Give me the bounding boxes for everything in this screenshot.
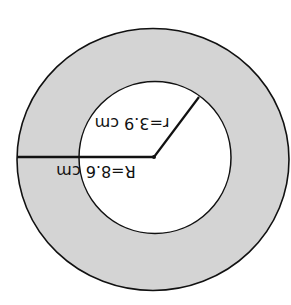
outer-radius-label: R=8.6 cm: [56, 162, 135, 181]
annulus-diagram: R=8.6 cm r=3.9 cm: [0, 0, 291, 305]
center-point: [152, 155, 156, 159]
inner-radius-label: r=3.9 cm: [95, 114, 170, 133]
